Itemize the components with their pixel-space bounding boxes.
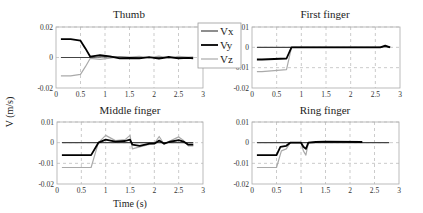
thumb-panel: Thumb 00.511.522.530.020-0.02 xyxy=(37,8,205,99)
thumb-title: Thumb xyxy=(113,8,145,20)
y-tick-label: 0 xyxy=(50,138,54,147)
x-tick-label: 1 xyxy=(104,186,108,195)
x-tick-label: 1.5 xyxy=(125,90,135,99)
x-tick-label: 2.5 xyxy=(371,90,381,99)
x-tick-label: 0 xyxy=(250,186,254,195)
x-tick-label: 2.5 xyxy=(174,186,184,195)
x-tick-label: 2.5 xyxy=(174,90,184,99)
y-tick-label: -0.01 xyxy=(38,159,54,168)
legend: Vx Vy Vz xyxy=(198,23,241,68)
x-tick-label: 0.5 xyxy=(272,90,282,99)
x-tick-label: 3 xyxy=(201,186,205,195)
x-tick-label: 2 xyxy=(152,90,156,99)
first-finger-title: First finger xyxy=(300,8,350,20)
x-tick-label: 0 xyxy=(55,186,59,195)
y-tick-label: -0.02 xyxy=(233,180,249,189)
y-tick-label: 0.02 xyxy=(40,23,53,32)
y-tick-label: -0.02 xyxy=(37,84,53,93)
middle-finger-panel: Middle finger 00.511.522.530.010-0.01-0.… xyxy=(38,104,205,195)
y-tick-label: 0.01 xyxy=(236,118,249,127)
figure: Thumb 00.511.522.530.020-0.02 First fing… xyxy=(0,0,423,213)
y-tick-label: 0 xyxy=(245,138,249,147)
x-tick-label: 3 xyxy=(201,90,205,99)
series-vy-line xyxy=(61,39,193,58)
x-tick-label: 0 xyxy=(54,90,58,99)
x-tick-label: 1.5 xyxy=(321,90,331,99)
x-tick-label: 0 xyxy=(250,90,254,99)
x-tick-label: 2 xyxy=(348,186,352,195)
y-tick-label: -0.02 xyxy=(233,84,249,93)
y-tick-label: 0 xyxy=(245,43,249,52)
x-tick-label: 2 xyxy=(349,90,353,99)
x-tick-label: 2 xyxy=(152,186,156,195)
legend-vy-label: Vy xyxy=(220,39,233,51)
x-tick-label: 0.5 xyxy=(272,186,282,195)
x-axis-label: Time (s) xyxy=(113,198,147,210)
x-tick-label: 3 xyxy=(397,186,401,195)
y-axis-label: V (m/s) xyxy=(4,97,16,128)
ring-finger-title: Ring finger xyxy=(300,104,351,116)
x-tick-label: 1 xyxy=(103,90,107,99)
x-tick-label: 1.5 xyxy=(125,186,135,195)
x-tick-label: 1.5 xyxy=(321,186,331,195)
x-tick-label: 0.5 xyxy=(76,90,86,99)
y-tick-label: -0.01 xyxy=(233,159,249,168)
x-tick-label: 3 xyxy=(398,90,402,99)
legend-vx-label: Vx xyxy=(220,25,234,37)
y-tick-label: -0.02 xyxy=(38,180,54,189)
y-tick-label: 0 xyxy=(49,53,53,62)
middle-finger-title: Middle finger xyxy=(100,104,161,116)
series-vy-line xyxy=(257,142,362,156)
legend-vz-label: Vz xyxy=(220,53,233,65)
x-tick-label: 1 xyxy=(299,90,303,99)
ring-finger-panel: Ring finger 00.511.522.530.010-0.01-0.02 xyxy=(233,104,401,195)
first-finger-panel: First finger 00.511.522.530.010-0.01-0.0… xyxy=(233,8,402,99)
x-tick-label: 1 xyxy=(299,186,303,195)
x-tick-label: 0.5 xyxy=(77,186,87,195)
y-tick-label: 0.01 xyxy=(41,118,54,127)
x-tick-label: 2.5 xyxy=(370,186,380,195)
